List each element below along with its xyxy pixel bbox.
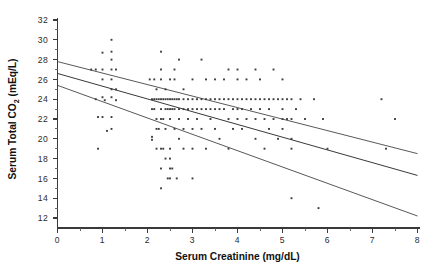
- data-point: [214, 78, 216, 80]
- data-point: [187, 118, 189, 120]
- data-point: [241, 128, 243, 130]
- data-point: [304, 118, 306, 120]
- data-point: [228, 148, 230, 150]
- data-point: [169, 168, 171, 170]
- data-point: [169, 148, 171, 150]
- data-point: [295, 108, 297, 110]
- data-point: [232, 108, 234, 110]
- x-axis-tick-labels: 012345678: [55, 235, 420, 245]
- data-point: [111, 128, 113, 130]
- x-tick-label: 0: [55, 235, 60, 245]
- data-point: [153, 98, 155, 100]
- data-point: [237, 78, 239, 80]
- y-tick-label: 24: [38, 94, 49, 104]
- data-point: [183, 108, 185, 110]
- data-point: [111, 39, 113, 41]
- x-tick-label: 8: [415, 235, 420, 245]
- data-point: [286, 118, 288, 120]
- x-tick-label: 5: [280, 235, 285, 245]
- data-point: [196, 108, 198, 110]
- data-point: [201, 98, 203, 100]
- x-tick-label: 1: [100, 235, 105, 245]
- data-point: [169, 98, 171, 100]
- data-point: [291, 98, 293, 100]
- data-point: [162, 118, 164, 120]
- data-point: [156, 88, 158, 90]
- data-point: [291, 118, 293, 120]
- data-point: [228, 118, 230, 120]
- data-point: [167, 177, 169, 179]
- y-axis-tick-labels: 1214161820222426283032: [38, 15, 49, 223]
- data-point: [277, 138, 279, 140]
- data-point: [259, 98, 261, 100]
- data-point: [169, 118, 171, 120]
- data-point: [300, 98, 302, 100]
- data-point: [176, 177, 178, 179]
- data-point: [183, 148, 185, 150]
- data-point: [111, 88, 113, 90]
- data-point: [201, 59, 203, 61]
- y-tick-label: 26: [38, 75, 49, 85]
- data-point: [237, 69, 239, 71]
- data-point: [178, 138, 180, 140]
- y-axis-title-unit: (mEq/L): [7, 59, 18, 100]
- data-point: [291, 197, 293, 199]
- data-point: [223, 78, 225, 80]
- data-point: [273, 98, 275, 100]
- data-point: [169, 78, 171, 80]
- data-point: [178, 59, 180, 61]
- data-point: [291, 148, 293, 150]
- data-point: [246, 78, 248, 80]
- data-point: [232, 98, 234, 100]
- data-point: [160, 148, 162, 150]
- data-point: [214, 108, 216, 110]
- data-point: [156, 148, 158, 150]
- data-point: [313, 98, 315, 100]
- data-point: [241, 108, 243, 110]
- data-point: [255, 118, 257, 120]
- data-point: [322, 118, 324, 120]
- data-point: [210, 98, 212, 100]
- data-point: [174, 128, 176, 130]
- data-point: [264, 118, 266, 120]
- data-point: [205, 108, 207, 110]
- data-point: [237, 98, 239, 100]
- data-point: [111, 96, 113, 98]
- data-point: [160, 168, 162, 170]
- data-point: [169, 108, 171, 110]
- data-point: [246, 98, 248, 100]
- data-point: [115, 69, 117, 71]
- y-axis-title: Serum Total CO2 (mEq/L): [7, 59, 21, 180]
- data-point: [165, 128, 167, 130]
- data-point: [104, 99, 106, 101]
- data-point: [192, 177, 194, 179]
- data-point: [201, 128, 203, 130]
- data-point: [183, 98, 185, 100]
- data-point: [160, 118, 162, 120]
- data-point: [153, 78, 155, 80]
- data-point: [219, 108, 221, 110]
- data-point: [178, 118, 180, 120]
- data-point: [223, 108, 225, 110]
- y-tick-label: 32: [38, 15, 49, 25]
- data-point: [174, 108, 176, 110]
- data-point: [151, 98, 153, 100]
- data-point: [273, 69, 275, 71]
- data-point: [255, 98, 257, 100]
- data-point: [169, 158, 171, 160]
- data-point: [158, 98, 160, 100]
- x-tick-label: 6: [325, 235, 330, 245]
- data-point: [255, 69, 257, 71]
- y-tick-label: 16: [38, 174, 49, 184]
- data-point: [277, 98, 279, 100]
- scatter-plot-figure: 1214161820222426283032 012345678 Serum C…: [0, 0, 436, 273]
- x-tick-label: 2: [145, 235, 150, 245]
- data-point: [268, 128, 270, 130]
- data-point: [171, 108, 173, 110]
- data-point: [268, 98, 270, 100]
- upper-confidence-band: [58, 62, 418, 154]
- data-point: [174, 69, 176, 71]
- data-point: [205, 148, 207, 150]
- data-point: [102, 78, 104, 80]
- data-point: [237, 108, 239, 110]
